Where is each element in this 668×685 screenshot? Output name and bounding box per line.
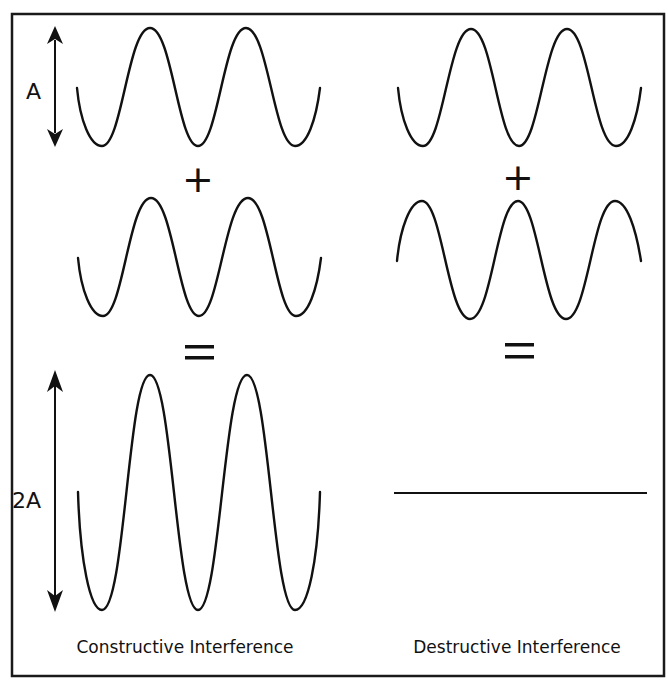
amplitude-label: A: [26, 79, 41, 104]
amplitude-arrow-a: [47, 26, 63, 147]
plus-sign-right: +: [502, 155, 534, 199]
destructive-input-wave-1: [398, 29, 641, 146]
constructive-caption: Constructive Interference: [77, 637, 294, 657]
interference-diagram: A + 2A Constructive Interference + Destr…: [0, 0, 668, 685]
constructive-result-wave: [78, 375, 320, 610]
equals-sign-right: [505, 343, 534, 359]
equals-sign-left: [185, 345, 214, 360]
destructive-input-wave-2: [397, 201, 641, 319]
double-amplitude-label: 2A: [12, 488, 41, 513]
destructive-caption: Destructive Interference: [413, 637, 621, 657]
diagram-frame: [12, 14, 664, 676]
plus-sign-left: +: [182, 157, 214, 201]
constructive-input-wave-2: [78, 198, 321, 316]
constructive-input-wave-1: [77, 28, 320, 146]
amplitude-arrow-2a: [47, 370, 63, 612]
